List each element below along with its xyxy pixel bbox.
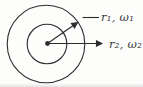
radius-arrow-r1	[48, 23, 78, 44]
label-r1-omega1: r₁, ω₁	[101, 10, 134, 24]
label-r2-omega2: r₂, ω₂	[109, 37, 142, 51]
figure-canvas: r₁, ω₁ r₂, ω₂	[0, 0, 143, 87]
concentric-circles-figure: r₁, ω₁ r₂, ω₂	[0, 0, 143, 87]
